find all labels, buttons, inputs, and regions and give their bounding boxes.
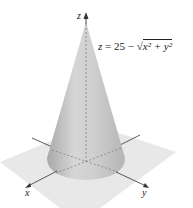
- equation-constant: 25: [114, 40, 125, 52]
- equation-lhs: z: [98, 40, 102, 52]
- sqrt-icon: √: [137, 40, 143, 52]
- z-axis-arrow-icon: [84, 12, 89, 19]
- equation-operator: −: [128, 40, 134, 52]
- z-axis-label: z: [77, 10, 81, 21]
- surface-equation: z = 25 − √x² + y²: [98, 40, 172, 52]
- cone-diagram: [0, 0, 193, 208]
- y-axis-label: y: [142, 187, 146, 198]
- equation-radicand: x² + y²: [143, 39, 172, 52]
- x-axis-label: x: [25, 187, 29, 198]
